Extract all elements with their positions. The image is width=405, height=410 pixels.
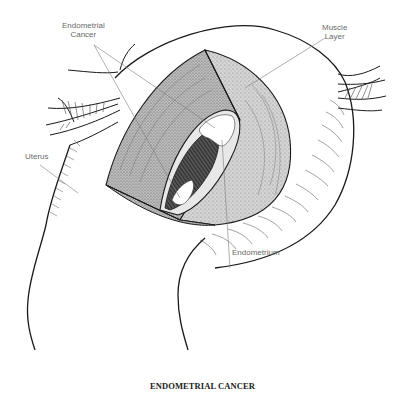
uterus-left-hatching — [50, 140, 80, 216]
left-adnexa-hatching — [60, 100, 104, 130]
uterus-drawing — [0, 0, 405, 410]
label-muscle-layer-line2: Layer — [322, 32, 347, 41]
endometrial-cancer-illustration: Endometrial Cancer Muscle Layer Uterus E… — [0, 0, 405, 410]
label-muscle-layer: Muscle Layer — [322, 23, 347, 41]
label-endometrial-cancer-line1: Endometrial — [62, 21, 105, 30]
label-endometrium: Endometrium — [232, 248, 280, 257]
label-muscle-layer-line1: Muscle — [322, 23, 347, 32]
label-endometrial-cancer: Endometrial Cancer — [62, 21, 105, 39]
label-endometrium-text: Endometrium — [232, 248, 280, 257]
label-uterus-text: Uterus — [25, 152, 49, 161]
right-adnexa — [338, 66, 386, 111]
label-endometrial-cancer-line2: Cancer — [62, 30, 105, 39]
figure-caption: ENDOMETRIAL CANCER — [0, 381, 405, 391]
label-uterus: Uterus — [25, 152, 49, 161]
